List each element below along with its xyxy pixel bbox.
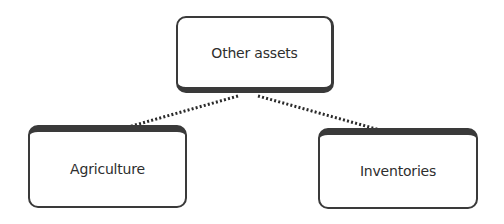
- node-label: Agriculture: [70, 161, 145, 177]
- node-agriculture: Agriculture: [28, 125, 187, 208]
- node-inventories: Inventories: [318, 128, 478, 209]
- node-other-assets: Other assets: [176, 16, 334, 93]
- connector-root-to-agriculture: [128, 96, 238, 127]
- node-label: Other assets: [211, 45, 297, 61]
- node-label: Inventories: [360, 163, 436, 179]
- connector-root-to-inventories: [258, 96, 380, 130]
